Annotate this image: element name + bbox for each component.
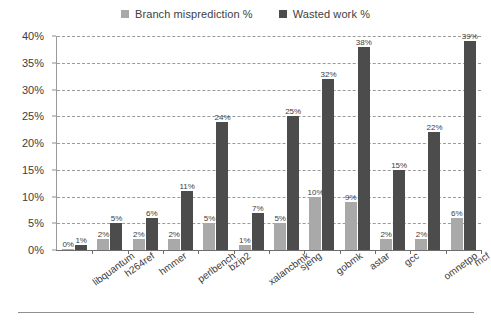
bar[interactable]: 39% [464, 41, 476, 250]
bar-value-label: 22% [426, 123, 442, 132]
bar-value-label: 10% [307, 188, 323, 197]
bar-value-label: 1% [239, 236, 251, 245]
footer-divider [18, 312, 474, 313]
bar[interactable]: 24% [216, 122, 228, 250]
bar[interactable]: 5% [274, 223, 286, 250]
y-axis-tick-label: 15% [22, 164, 44, 176]
bar-value-label: 2% [416, 230, 428, 239]
y-axis-tick-label: 0% [28, 244, 44, 256]
y-axis-tick-label: 20% [22, 137, 44, 149]
y-axis-tick-label: 25% [22, 110, 44, 122]
bar-group: 2%6% [128, 36, 163, 250]
bar-value-label: 11% [179, 182, 194, 191]
bar-group: 2%22% [410, 36, 445, 250]
bar[interactable]: 10% [309, 197, 321, 251]
bar[interactable]: 2% [380, 239, 392, 250]
bar[interactable]: 2% [415, 239, 427, 250]
bar-group: 9%38% [340, 36, 375, 250]
bar-group: 0%1% [57, 36, 92, 250]
legend-swatch-icon [279, 10, 287, 18]
bar-value-label: 5% [274, 214, 286, 223]
bar-value-label: 2% [380, 230, 392, 239]
bar[interactable]: 25% [287, 116, 299, 250]
y-axis-tick-label: 5% [28, 217, 44, 229]
bar-value-label: 0% [62, 240, 74, 249]
bar-value-label: 2% [168, 230, 180, 239]
x-axis-category-label: omnetpp [441, 250, 479, 282]
bar[interactable]: 11% [181, 191, 193, 250]
legend-entry-wasted-work: Wasted work % [279, 8, 370, 20]
bar[interactable]: 22% [428, 132, 440, 250]
bar-value-label: 15% [391, 161, 407, 170]
bar[interactable]: 38% [358, 47, 370, 250]
bar-value-label: 39% [462, 32, 478, 41]
x-axis-labels: libquantumh264refhmmerperlbenchbzip2xala… [57, 250, 481, 310]
bar[interactable]: 5% [110, 223, 122, 250]
bar-group: 5%25% [269, 36, 304, 250]
bar-group: 1%7% [234, 36, 269, 250]
x-axis-category-label: hmmer [157, 250, 189, 277]
y-axis-tick-label: 40% [22, 30, 44, 42]
bar-group: 6%39% [446, 36, 481, 250]
bar[interactable]: 2% [168, 239, 180, 250]
bar[interactable]: 2% [97, 239, 109, 250]
bar-group: 10%32% [304, 36, 339, 250]
x-axis-category-label: astar [368, 250, 392, 272]
bar-value-label: 6% [451, 209, 463, 218]
bar[interactable]: 6% [451, 218, 463, 250]
bar-value-label: 5% [204, 214, 216, 223]
bar-value-label: 25% [285, 107, 301, 116]
bar-value-label: 38% [356, 38, 372, 47]
bar-value-label: 2% [98, 230, 110, 239]
legend-swatch-icon [121, 10, 129, 18]
bar-chart: 0%5%10%15%20%25%30%35%40% 0%1%2%5%2%6%2%… [0, 36, 491, 266]
bar-value-label: 7% [252, 204, 264, 213]
bar-value-label: 24% [214, 113, 230, 122]
y-axis-tick-label: 30% [22, 84, 44, 96]
bar[interactable]: 5% [203, 223, 215, 250]
bar-value-label: 32% [320, 70, 336, 79]
x-axis-category-label: gobmk [334, 250, 365, 277]
plot-area: 0%1%2%5%2%6%2%11%5%24%1%7%5%25%10%32%9%3… [57, 36, 481, 250]
bar-value-label: 9% [345, 193, 357, 202]
bar-value-label: 5% [111, 214, 123, 223]
x-axis-category-label: gcc [402, 250, 421, 268]
legend-entry-branch-misprediction: Branch misprediction % [121, 8, 253, 20]
bar[interactable]: 32% [322, 79, 334, 250]
bar[interactable]: 15% [393, 170, 405, 250]
bar-group: 2%5% [92, 36, 127, 250]
bar[interactable]: 7% [252, 213, 264, 250]
bar[interactable]: 6% [146, 218, 158, 250]
bar[interactable]: 2% [133, 239, 145, 250]
y-axis-tick-label: 10% [22, 191, 44, 203]
chart-legend: Branch misprediction % Wasted work % [0, 8, 491, 20]
bar-value-label: 2% [133, 230, 145, 239]
bar[interactable]: 9% [345, 202, 357, 250]
bar-group: 2%11% [163, 36, 198, 250]
bar-value-label: 6% [146, 209, 158, 218]
bar-group: 2%15% [375, 36, 410, 250]
legend-label: Branch misprediction % [135, 8, 253, 20]
bar-value-label: 1% [75, 236, 87, 245]
bar-group: 5%24% [198, 36, 233, 250]
legend-label: Wasted work % [293, 8, 370, 20]
y-axis-tick-label: 35% [22, 57, 44, 69]
y-axis: 0%5%10%15%20%25%30%35%40% [0, 36, 52, 250]
